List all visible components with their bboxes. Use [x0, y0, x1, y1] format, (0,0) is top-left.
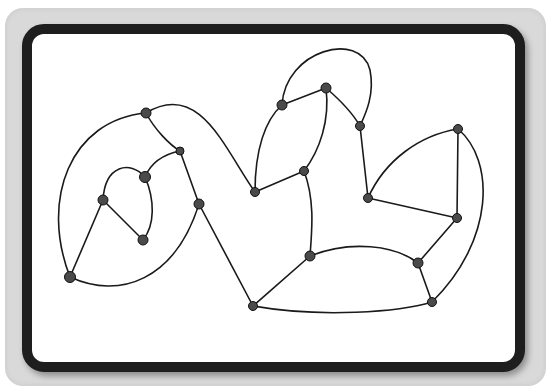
graph-node — [454, 125, 463, 134]
graph-edge — [304, 171, 312, 256]
graph-edge — [70, 200, 103, 277]
graph-edge — [255, 171, 304, 192]
graph-edge — [418, 218, 457, 263]
graph-edge — [282, 88, 326, 105]
graph-node — [194, 199, 204, 209]
graph-edge — [145, 151, 180, 177]
graph-edge — [368, 129, 458, 198]
graph-node — [453, 214, 462, 223]
graph-edge — [368, 198, 457, 218]
graph-node — [138, 235, 148, 245]
graph-node — [300, 167, 309, 176]
graph-node — [140, 172, 151, 183]
graph-edge — [199, 204, 253, 306]
graph-edge — [180, 151, 199, 204]
graph-edge — [418, 263, 432, 302]
graph-node — [305, 251, 315, 261]
graph-node — [428, 298, 437, 307]
graph-node — [413, 258, 423, 268]
graph-edge — [255, 105, 282, 192]
graph-node — [98, 195, 108, 205]
graph-node — [356, 122, 365, 131]
graph-diagram — [0, 0, 552, 386]
graph-edge — [360, 126, 368, 198]
graph-edge — [326, 88, 360, 126]
graph-edge — [103, 200, 143, 240]
graph-edge — [310, 246, 418, 263]
graph-edge — [253, 302, 432, 313]
graph-edge — [253, 256, 310, 306]
graph-node — [364, 194, 373, 203]
graph-edge — [70, 204, 199, 286]
graph-node — [277, 100, 287, 110]
graph-node — [321, 83, 331, 93]
graph-edge — [304, 88, 327, 171]
graph-node — [141, 108, 151, 118]
graph-edge — [457, 129, 458, 218]
graph-edge — [143, 177, 152, 240]
graph-node — [176, 147, 184, 155]
graph-edge — [146, 113, 180, 151]
graph-edge — [146, 104, 255, 192]
graph-node — [249, 302, 258, 311]
graph-node — [251, 188, 260, 197]
graph-edges — [59, 49, 484, 313]
graph-node — [65, 272, 76, 283]
graph-edge — [103, 168, 145, 200]
